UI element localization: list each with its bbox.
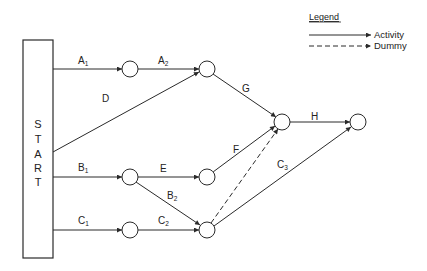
edge-d [53, 72, 199, 152]
label-g: G [242, 83, 250, 94]
node-5 [122, 222, 138, 238]
label-c2: C2 [158, 215, 169, 227]
node-8 [350, 114, 366, 130]
label-f: F [233, 144, 239, 155]
label-b2: B2 [167, 190, 178, 202]
start-box: S T A R T [23, 40, 53, 258]
node-1 [122, 61, 138, 77]
start-letter: T [35, 133, 42, 145]
node-3 [122, 169, 138, 185]
edge-g [213, 74, 276, 117]
edge-dummy [211, 129, 278, 223]
label-h: H [311, 111, 318, 122]
label-a2: A2 [158, 55, 169, 67]
start-letter: S [34, 118, 41, 130]
start-letter: A [34, 148, 42, 160]
legend-title: Legend [309, 12, 339, 22]
label-e: E [160, 163, 167, 174]
label-d: D [102, 93, 109, 104]
node-2 [199, 61, 215, 77]
label-a1: A1 [78, 55, 89, 67]
node-6 [199, 222, 215, 238]
label-b1: B1 [78, 162, 89, 174]
start-letter: T [35, 176, 42, 188]
edge-b2 [136, 182, 200, 225]
legend: Legend Activity Dummy [309, 12, 407, 51]
legend-activity-label: Activity [374, 29, 404, 40]
legend-dummy-label: Dummy [374, 40, 407, 51]
label-c3: C3 [277, 159, 288, 171]
node-4 [199, 169, 215, 185]
node-7 [274, 114, 290, 130]
start-letter: R [34, 162, 42, 174]
edge-c3 [214, 127, 351, 226]
network-diagram: S T A R T A1 A2 D G H B1 E F B2 [0, 0, 427, 271]
edge-f [213, 126, 275, 172]
label-c1: C1 [78, 215, 89, 227]
